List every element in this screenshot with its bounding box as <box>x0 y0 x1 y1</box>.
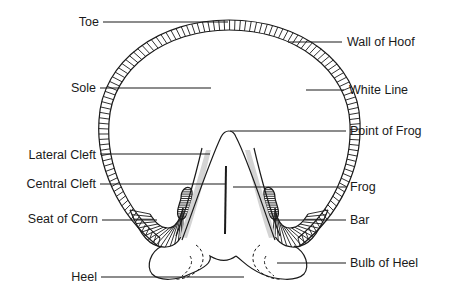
hatch-stroke <box>99 139 109 140</box>
hatch-stroke <box>102 102 112 105</box>
hatch-stroke <box>136 222 155 224</box>
hatch-stroke <box>328 64 337 70</box>
hatch-stroke <box>283 31 288 40</box>
hatch-stroke <box>302 222 321 224</box>
hatch-stroke <box>350 118 360 119</box>
hatch-stroke <box>181 27 185 37</box>
hatch-stroke <box>312 224 316 231</box>
hatch-stroke <box>278 29 282 38</box>
hoof-wall-outer-edge <box>99 20 360 246</box>
hatch-stroke <box>101 149 110 150</box>
hatch-stroke <box>337 187 344 192</box>
hatch-stroke <box>350 139 360 140</box>
hatch-stroke <box>129 56 138 63</box>
label-frog: Frog <box>350 180 376 194</box>
hatch-stroke <box>334 73 343 78</box>
hatch-stroke <box>105 91 115 95</box>
hatch-stroke <box>126 60 135 67</box>
hatch-stroke <box>104 163 113 166</box>
label-heel: Heel <box>71 270 97 284</box>
hatch-stroke <box>115 72 125 78</box>
hatch-stroke <box>331 68 340 74</box>
hoof-wall-hatching <box>99 20 360 246</box>
hatch-stroke <box>116 191 123 196</box>
hatch-stroke <box>349 149 358 150</box>
hatch-stroke <box>341 178 349 182</box>
label-seat-of-corn: Seat of Corn <box>28 212 98 226</box>
hatch-stroke <box>249 21 251 31</box>
central-cleft-line <box>225 166 226 234</box>
hoof-diagram: Toe Sole Lateral Cleft Central Cleft Sea… <box>0 0 453 300</box>
label-toe: Toe <box>79 15 99 29</box>
label-bulb-of-heel: Bulb of Heel <box>350 256 418 270</box>
hatch-stroke <box>339 183 347 187</box>
hatch-stroke <box>347 102 357 105</box>
hatch-stroke <box>316 221 320 228</box>
hatch-stroke <box>208 21 210 31</box>
hatch-stroke <box>119 196 126 201</box>
hatch-stroke <box>347 159 356 161</box>
hatch-stroke <box>202 22 204 32</box>
hatch-stroke <box>100 144 110 145</box>
label-white-line: White Line <box>349 83 408 97</box>
heel-turn-left <box>130 208 183 247</box>
hatch-stroke <box>335 192 342 197</box>
hatch-stroke <box>103 159 112 161</box>
hatch-stroke <box>348 107 358 109</box>
hatch-stroke <box>101 107 111 109</box>
hatch-stroke <box>321 56 329 63</box>
hatch-stroke <box>306 215 326 217</box>
bulb-right-dashed-contour <box>253 245 282 279</box>
hatch-stroke <box>192 24 195 34</box>
hatch-stroke <box>99 123 109 124</box>
label-wall-of-hoof: Wall of Hoof <box>347 35 415 49</box>
label-point-of-frog: Point of Frog <box>350 124 422 138</box>
heel-turn-right <box>273 208 328 247</box>
hatch-stroke <box>122 200 128 206</box>
hatch-stroke <box>171 30 176 39</box>
hatch-stroke <box>103 96 113 99</box>
hatch-stroke <box>349 113 359 115</box>
hatch-stroke <box>305 43 312 51</box>
hatch-stroke <box>288 33 293 42</box>
hatch-stroke <box>346 97 356 100</box>
hatch-stroke <box>118 68 127 74</box>
hatch-stroke <box>317 53 325 60</box>
hatch-stroke <box>274 27 278 36</box>
hatch-stroke <box>313 49 321 57</box>
hatch-stroke <box>186 25 190 35</box>
bulb-left-inner-dashed <box>182 256 192 276</box>
hatch-stroke <box>264 24 267 34</box>
hatch-stroke <box>301 40 308 48</box>
label-central-cleft: Central Cleft <box>27 177 97 191</box>
hatch-stroke <box>156 37 162 46</box>
hatch-stroke <box>112 77 122 82</box>
hatch-stroke <box>343 173 351 176</box>
hatch-stroke <box>309 46 316 54</box>
hatch-stroke <box>254 22 256 32</box>
hatch-stroke <box>340 82 350 87</box>
hatch-stroke <box>138 221 142 228</box>
hatch-stroke <box>109 178 117 182</box>
hatch-stroke <box>245 21 246 31</box>
hatch-stroke <box>100 112 110 114</box>
hatch-stroke <box>132 215 152 217</box>
hatch-stroke <box>337 77 347 82</box>
hatch-stroke <box>308 210 328 214</box>
hatch-stroke <box>330 201 336 207</box>
hatch-stroke <box>325 60 334 67</box>
hatch-stroke <box>344 169 353 172</box>
bulb-left-dashed-contour <box>174 245 203 279</box>
hatch-stroke <box>346 164 355 167</box>
hatch-stroke <box>197 23 200 33</box>
hatch-stroke <box>348 154 357 156</box>
hatch-stroke <box>349 144 359 145</box>
hatch-stroke <box>166 32 172 41</box>
hatch-stroke <box>147 42 154 50</box>
hatch-stroke <box>333 196 340 201</box>
hatch-stroke <box>122 64 131 70</box>
hatch-stroke <box>125 204 131 210</box>
label-sole: Sole <box>71 81 96 95</box>
hatch-stroke <box>106 168 115 171</box>
label-bar: Bar <box>350 213 369 227</box>
